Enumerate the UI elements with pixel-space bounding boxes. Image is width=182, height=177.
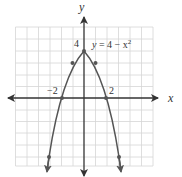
equation-label: y = 4 − x2 <box>91 38 132 50</box>
graph: x y −2 2 4 y = 4 − x2 <box>0 0 182 177</box>
tick-label-2: 2 <box>109 85 114 96</box>
x-axis-label: x <box>167 91 174 105</box>
axes <box>8 17 158 176</box>
y-axis-label: y <box>78 0 85 14</box>
tick-label-neg2: −2 <box>47 85 58 96</box>
tick-label-4: 4 <box>74 38 79 49</box>
